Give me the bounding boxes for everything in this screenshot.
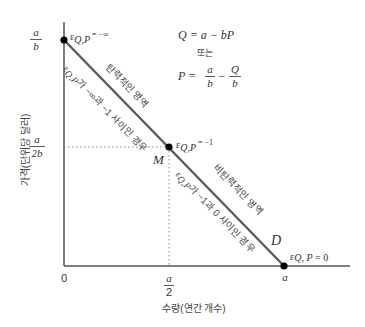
- svg-text:a: a: [166, 272, 172, 284]
- x-tick-origin: 0: [61, 272, 67, 284]
- elasticity-mid-label: εQ,P = −1: [176, 138, 213, 153]
- point-top-dot: [60, 36, 67, 43]
- demand-label-d: D: [270, 233, 281, 248]
- elasticity-top-label: εQ,P = −∞: [70, 30, 109, 45]
- svg-text:a: a: [33, 26, 39, 38]
- svg-text:b: b: [33, 40, 39, 52]
- svg-text:a: a: [207, 63, 213, 75]
- point-bottom-dot: [280, 262, 287, 269]
- x-tick-a: a: [282, 271, 288, 283]
- elasticity-bottom-label: εQ, P = 0: [290, 251, 328, 263]
- svg-text:a: a: [34, 133, 40, 145]
- elastic-region-label: 탄력적인 영역: [104, 61, 151, 109]
- y-axis-label: 가격(단위당 달러): [19, 114, 31, 186]
- x-axis-label: 수량(연간 개수): [162, 303, 225, 314]
- point-m-dot: [165, 143, 172, 150]
- elastic-range-label: εQ,P가 −∞과 −1 사이인 경우: [60, 63, 150, 155]
- y-tick-a-over-b: a b: [30, 26, 42, 52]
- equation-q: Q = a − bP: [178, 28, 235, 42]
- midpoint-label-m: M: [152, 152, 165, 167]
- svg-text:−: −: [219, 69, 226, 83]
- svg-text:b: b: [232, 77, 238, 89]
- x-tick-a-over-2: a 2: [164, 272, 174, 298]
- equation-or: 또는: [197, 48, 213, 58]
- svg-text:b: b: [207, 77, 213, 89]
- svg-text:2: 2: [166, 286, 172, 298]
- equation-block: Q = a − bP 또는 P = a b − Q b: [177, 28, 241, 89]
- svg-text:Q: Q: [231, 63, 239, 75]
- equation-p-lhs: P =: [177, 69, 196, 83]
- elasticity-demand-diagram: a b a 2b 가격(단위당 달러) 0 a 2 a 수량(연간 개수) εQ…: [0, 0, 365, 327]
- inelastic-range-label: εQ,P가 −1과 0 사이인 경우: [172, 169, 257, 256]
- demand-line: [64, 40, 284, 266]
- svg-text:2b: 2b: [32, 147, 44, 159]
- y-tick-a-over-2b: a 2b: [29, 133, 45, 159]
